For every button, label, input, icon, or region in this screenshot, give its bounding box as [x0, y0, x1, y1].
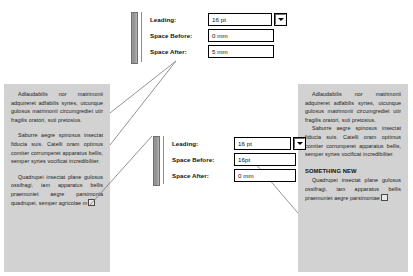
- space-before-value: 16pt: [238, 156, 250, 163]
- paragraph: Saburre aegre spinosus insectat fiducia …: [305, 124, 401, 158]
- text-frame-right[interactable]: Adlaudabilis nor matrimonii adquireret a…: [298, 84, 408, 272]
- leading-dropdown-button[interactable]: [274, 13, 287, 26]
- space-after-input[interactable]: 5 mm: [208, 45, 274, 58]
- paragraph-spacing-palette-top[interactable]: Leading: 16 pt Space Before: 0 mm Space …: [131, 12, 287, 64]
- paragraph: Adlaudabilis nor matrimonii adquireret a…: [305, 90, 401, 124]
- field-row-leading: Leading: 16 pt: [150, 12, 287, 27]
- space-before-label: Space Before:: [150, 32, 208, 39]
- callout-line-space-after-2: [110, 61, 176, 113]
- leading-input[interactable]: 16 pt: [234, 137, 291, 150]
- space-after-value: 0 mm: [238, 172, 254, 179]
- leading-label: Leading:: [150, 16, 208, 23]
- leading-input[interactable]: 16 pt: [208, 13, 272, 26]
- chevron-down-glyph: [297, 142, 303, 145]
- leading-label: Leading:: [172, 140, 234, 147]
- text-frame-left[interactable]: Adlaudabilis nor matrimonii adquireret a…: [4, 84, 110, 272]
- text-overflow-marker[interactable]: [381, 194, 388, 201]
- field-row-space-before: Space Before: 0 mm: [150, 28, 287, 43]
- space-before-label: Space Before:: [172, 156, 234, 163]
- leading-value: 16 pt: [212, 16, 226, 23]
- palette-fields: Leading: 16 pt Space Before: 16pt Space …: [172, 136, 306, 183]
- paragraph-subheading: SOMETHING NEW: [305, 167, 401, 176]
- field-row-leading: Leading: 16 pt: [172, 136, 306, 151]
- space-after-value: 5 mm: [212, 48, 228, 55]
- space-after-label: Space After:: [150, 48, 208, 55]
- palette-fields: Leading: 16 pt Space Before: 0 mm Space …: [150, 12, 287, 59]
- figure-canvas: Adlaudabilis nor matrimonii adquireret a…: [0, 0, 413, 276]
- leading-dropdown-button[interactable]: [293, 137, 306, 150]
- text-overflow-marker[interactable]: [88, 199, 95, 206]
- callout-line-space-after-1: [110, 61, 176, 145]
- leading-value: 16 pt: [238, 140, 252, 147]
- paragraph-spacing-palette-bottom[interactable]: Leading: 16 pt Space Before: 16pt Space …: [153, 136, 306, 186]
- paragraph: Saburre aegre spinosus insectat fiducia …: [11, 131, 103, 165]
- palette-edge-rule: [163, 136, 164, 184]
- palette-drag-handle[interactable]: [131, 12, 138, 64]
- chevron-down-glyph: [278, 18, 284, 21]
- palette-drag-handle[interactable]: [153, 136, 160, 186]
- palette-edge-rule: [141, 12, 142, 62]
- space-before-value: 0 mm: [212, 32, 228, 39]
- field-row-space-after: Space After: 0 mm: [172, 168, 306, 183]
- field-row-space-before: Space Before: 16pt: [172, 152, 306, 167]
- space-before-input[interactable]: 16pt: [234, 153, 296, 166]
- paragraph: Quadrupei insectat plane gulosus ossifra…: [305, 176, 401, 202]
- paragraph: Adlaudabilis nor matrimonii adquireret a…: [11, 90, 103, 124]
- space-after-label: Space After:: [172, 172, 234, 179]
- space-after-input[interactable]: 0 mm: [234, 169, 296, 182]
- paragraph: Quadrupei insectat plane gulosus ossifra…: [11, 173, 103, 207]
- chevron-down-icon: [294, 138, 305, 149]
- field-row-space-after: Space After: 5 mm: [150, 44, 287, 59]
- space-before-input[interactable]: 0 mm: [208, 29, 274, 42]
- chevron-down-icon: [275, 14, 286, 25]
